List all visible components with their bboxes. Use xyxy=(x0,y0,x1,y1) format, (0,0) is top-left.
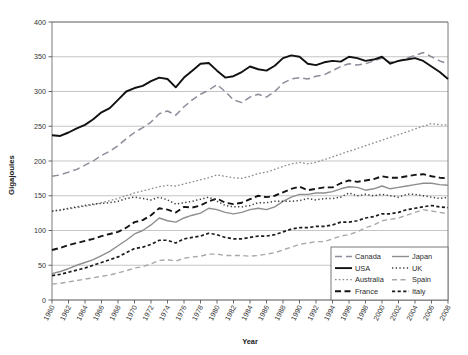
y-axis-title: Gigajoules xyxy=(7,154,16,195)
y-axis-title-text: Gigajoules xyxy=(7,154,16,195)
y-tick-label: 50 xyxy=(38,261,46,270)
chart-canvas: 050100150200250300350400 196019621964196… xyxy=(0,0,468,355)
chart-legend[interactable]: CanadaUSAAustraliaFranceJapanUKSpainItal… xyxy=(331,247,448,300)
legend-label-japan[interactable]: Japan xyxy=(412,252,432,261)
y-tick-label: 200 xyxy=(34,157,46,166)
legend-label-spain[interactable]: Spain xyxy=(412,275,431,284)
x-axis-title-text: Year xyxy=(242,337,258,346)
y-tick-label: 100 xyxy=(34,226,46,235)
x-axis-title: Year xyxy=(242,337,258,346)
legend-label-canada[interactable]: Canada xyxy=(355,252,382,261)
legend-label-italy[interactable]: Italy xyxy=(412,287,426,296)
energy-consumption-line-chart: 050100150200250300350400 196019621964196… xyxy=(0,0,468,355)
y-tick-label: 300 xyxy=(34,87,46,96)
y-tick-label: 400 xyxy=(34,18,46,27)
legend-label-france[interactable]: France xyxy=(355,287,378,296)
y-tick-label: 150 xyxy=(34,191,46,200)
legend-label-usa[interactable]: USA xyxy=(355,264,370,273)
legend-label-australia[interactable]: Australia xyxy=(355,275,385,284)
y-tick-label: 350 xyxy=(34,52,46,61)
legend-label-uk[interactable]: UK xyxy=(412,264,422,273)
y-tick-label: 0 xyxy=(42,296,46,305)
y-tick-label: 250 xyxy=(34,122,46,131)
